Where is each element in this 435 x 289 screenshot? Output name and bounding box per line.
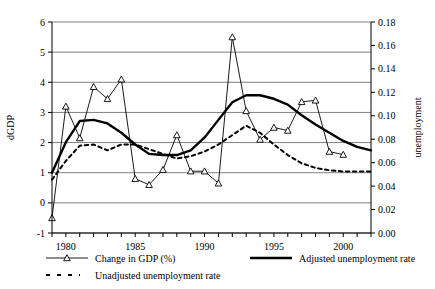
right-axis-tick-label: 0.12 (378, 87, 396, 98)
series-1 (49, 34, 347, 221)
x-axis-tick-label: 1990 (195, 241, 215, 252)
right-axis-tick-label: 0.06 (378, 157, 396, 168)
triangle-marker (174, 132, 181, 138)
left-axis-tick-label: 6 (40, 17, 45, 28)
legend-item-3[interactable]: Unadjusted unemployment rate (46, 270, 221, 281)
series-2 (52, 95, 371, 172)
x-axis-tick-label: 1980 (56, 241, 76, 252)
triangle-marker (90, 84, 97, 90)
legend-item-1[interactable]: Change in GDP (%) (46, 253, 175, 265)
right-axis-tick-label: 0.14 (378, 63, 396, 74)
triangle-marker (76, 135, 83, 141)
right-axis-tick-label: 0.08 (378, 134, 396, 145)
triangle-marker (243, 108, 250, 114)
x-axis-tick-label: 1985 (125, 241, 145, 252)
legend-item-label: Change in GDP (%) (95, 253, 175, 265)
series-group (49, 34, 371, 221)
series-line (52, 37, 343, 218)
legend-group: Change in GDP (%)Adjusted unemployment r… (46, 253, 416, 281)
legend-item-2[interactable]: Adjusted unemployment rate (250, 253, 416, 264)
right-axis-tick-label: 0.16 (378, 40, 396, 51)
left-axis-tick-label: 2 (40, 137, 45, 148)
x-axis-tick-label: 1995 (264, 241, 284, 252)
right-axis-tick-label: 0.10 (378, 110, 396, 121)
triangle-marker (160, 166, 167, 172)
right-axis-title: unemployment (412, 97, 423, 157)
left-axis-tick-label: 1 (40, 167, 45, 178)
triangle-marker (63, 103, 70, 109)
triangle-marker (132, 175, 139, 181)
triangle-marker (118, 76, 125, 82)
triangle-marker (312, 97, 319, 103)
chart-container: -101234560.000.020.040.060.080.100.120.1… (0, 0, 435, 289)
left-axis-tick-label: 5 (40, 47, 45, 58)
triangle-marker (326, 148, 333, 154)
series-3 (52, 126, 371, 180)
triangle-marker (229, 34, 236, 40)
series-line (52, 126, 371, 180)
right-axis-tick-label: 0.02 (378, 204, 396, 215)
left-axis-tick-label: 4 (40, 77, 45, 88)
series-line (52, 95, 371, 172)
right-axis-tick-label: 0.00 (378, 228, 396, 239)
x-axis-tick-label: 2000 (333, 241, 353, 252)
right-axis-tick-label: 0.18 (378, 17, 396, 28)
legend-item-label: Unadjusted unemployment rate (95, 270, 221, 281)
left-axis-tick-label: 0 (40, 197, 45, 208)
triangle-marker (271, 124, 278, 130)
left-axis-title: dGDP (5, 115, 16, 140)
left-axis-tick-label: 3 (40, 107, 45, 118)
right-axis-tick-label: 0.04 (378, 181, 396, 192)
left-axis-tick-label: -1 (37, 228, 45, 239)
legend-item-label: Adjusted unemployment rate (299, 253, 416, 264)
economic-indicators-chart: -101234560.000.020.040.060.080.100.120.1… (0, 0, 435, 289)
